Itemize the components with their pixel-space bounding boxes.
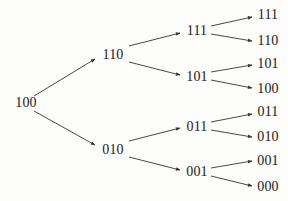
node-leaf-6: 010 (257, 130, 279, 144)
arrow-edge (34, 111, 95, 145)
node-leaf-2: 110 (257, 34, 278, 48)
tree-diagram: 100 110 010 111 101 011 001 111 110 101 … (0, 0, 288, 201)
arrow-edge (211, 17, 252, 26)
arrow-edge (129, 62, 180, 75)
node-l2-a: 111 (187, 24, 208, 38)
node-leaf-8: 000 (257, 180, 279, 194)
node-l2-c: 011 (186, 120, 207, 134)
node-leaf-4: 100 (257, 82, 279, 96)
arrow-edge (129, 128, 180, 141)
node-leaf-3: 101 (257, 57, 279, 71)
arrow-edge (211, 65, 252, 72)
node-leaf-7: 001 (257, 154, 279, 168)
arrow-edge (129, 33, 180, 46)
arrow-edge (211, 34, 252, 41)
edges-layer (0, 0, 288, 201)
arrow-edge (211, 130, 252, 137)
node-leaf-5: 011 (257, 105, 278, 119)
arrow-edge (129, 157, 180, 170)
arrow-edge (211, 114, 252, 122)
node-root: 100 (15, 96, 37, 110)
node-l1-a: 110 (102, 48, 123, 62)
arrow-edge (211, 176, 252, 186)
node-l1-b: 010 (102, 143, 124, 157)
node-l2-b: 101 (186, 70, 208, 84)
node-l2-d: 001 (186, 165, 208, 179)
arrow-edge (34, 59, 95, 96)
arrow-edge (211, 161, 252, 168)
node-leaf-1: 111 (258, 8, 279, 22)
arrow-edge (211, 80, 252, 88)
